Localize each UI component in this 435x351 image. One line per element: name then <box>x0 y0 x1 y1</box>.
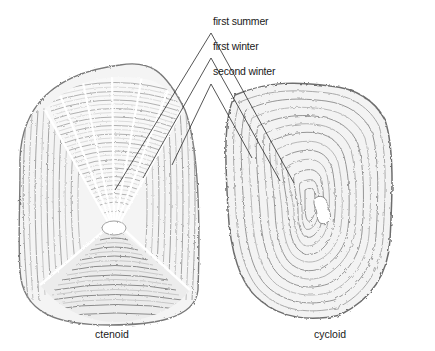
diagram-canvas <box>0 0 435 351</box>
caption-cycloid: cycloid <box>314 328 346 340</box>
label-first-winter: first winter <box>213 40 258 52</box>
fish-scale-diagram: first summer first winter second winter … <box>0 0 435 351</box>
caption-ctenoid: ctenoid <box>95 328 129 340</box>
cycloid-scale <box>226 83 392 318</box>
ctenoid-scale <box>19 60 200 330</box>
label-first-summer: first summer <box>213 15 268 27</box>
label-second-winter: second winter <box>213 65 275 77</box>
